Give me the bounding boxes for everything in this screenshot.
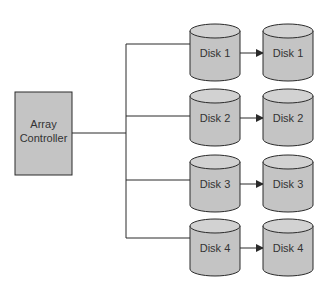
- disk-pair: Disk 4Disk 4: [126, 219, 313, 276]
- source-disk: Disk 3: [190, 155, 240, 212]
- controller-label-line-1: Array: [30, 118, 57, 130]
- source-disk: Disk 1: [190, 24, 240, 81]
- source-disk: Disk 4: [190, 219, 240, 276]
- disk-label: Disk 4: [200, 242, 231, 254]
- raid-mirroring-diagram: Array Controller Disk 1Disk 1Disk 2Disk …: [0, 0, 331, 283]
- cylinder-top: [263, 89, 313, 103]
- cylinder-top: [190, 24, 240, 38]
- source-disk: Disk 2: [190, 89, 240, 146]
- controller-label-line-2: Controller: [20, 132, 68, 144]
- disk-label: Disk 2: [200, 112, 231, 124]
- cylinder-top: [190, 155, 240, 169]
- cylinder-top: [190, 89, 240, 103]
- mirror-disk: Disk 2: [263, 89, 313, 146]
- disk-label: Disk 3: [273, 178, 304, 190]
- disk-label: Disk 1: [273, 47, 304, 59]
- disk-pair: Disk 3Disk 3: [126, 155, 313, 212]
- disk-label: Disk 4: [273, 242, 304, 254]
- cylinder-top: [263, 24, 313, 38]
- cylinder-top: [190, 219, 240, 233]
- disk-pair: Disk 1Disk 1: [126, 24, 313, 81]
- mirror-disk: Disk 1: [263, 24, 313, 81]
- mirror-disk: Disk 4: [263, 219, 313, 276]
- cylinder-top: [263, 219, 313, 233]
- disk-pairs: Disk 1Disk 1Disk 2Disk 2Disk 3Disk 3Disk…: [126, 24, 313, 276]
- disk-pair: Disk 2Disk 2: [126, 89, 313, 146]
- cylinder-top: [263, 155, 313, 169]
- mirror-disk: Disk 3: [263, 155, 313, 212]
- diagram-svg: Array Controller Disk 1Disk 1Disk 2Disk …: [0, 0, 331, 283]
- disk-label: Disk 2: [273, 112, 304, 124]
- disk-label: Disk 3: [200, 178, 231, 190]
- array-controller: Array Controller: [15, 92, 72, 175]
- disk-label: Disk 1: [200, 47, 231, 59]
